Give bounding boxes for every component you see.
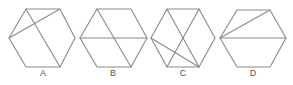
dividing-line xyxy=(220,10,270,38)
dividing-line xyxy=(26,9,60,67)
option-c-label: C xyxy=(173,68,193,78)
option-a-label: A xyxy=(33,68,53,78)
dividing-line xyxy=(9,9,60,38)
option-b-label: B xyxy=(103,68,123,78)
dividing-line xyxy=(151,38,199,67)
option-d-label: D xyxy=(243,68,263,78)
option-c-hexagon xyxy=(151,9,215,67)
option-a-hexagon xyxy=(9,9,75,67)
option-d-hexagon xyxy=(220,10,286,67)
hexagon-outline xyxy=(9,9,75,67)
option-b-hexagon xyxy=(80,9,147,67)
